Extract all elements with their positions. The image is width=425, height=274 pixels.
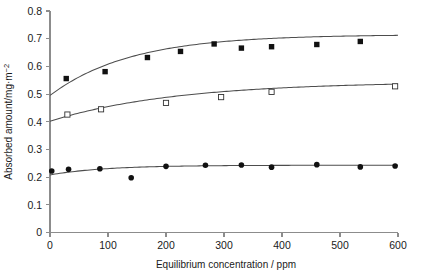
y-tick-label: 0.6	[27, 60, 42, 72]
y-tick-label: 0.5	[27, 88, 42, 100]
plot-axes	[50, 11, 398, 233]
fit-curves	[50, 35, 398, 175]
adsorption-isotherm-chart: 00.10.20.30.40.50.60.70.8 01002003004005…	[0, 0, 425, 274]
y-tick-label: 0.8	[27, 5, 42, 17]
data-point-filled-circle	[203, 162, 209, 168]
data-point-filled-square	[314, 42, 319, 47]
fit-curve-filled-square	[50, 35, 398, 95]
x-tick-label: 300	[215, 239, 233, 251]
x-tick-label: 400	[273, 239, 291, 251]
data-point-filled-circle	[66, 167, 72, 173]
chart-figure: 00.10.20.30.40.50.60.70.8 01002003004005…	[0, 0, 425, 274]
y-tick-label: 0.1	[27, 199, 42, 211]
data-point-filled-square	[178, 49, 183, 54]
data-point-filled-circle	[128, 175, 134, 181]
data-point-open-square	[269, 89, 274, 94]
y-tick-label: 0.7	[27, 32, 42, 44]
y-axis-title-base: Absorbed amount/mg·m	[3, 72, 14, 179]
data-point-filled-square	[358, 39, 363, 44]
data-point-open-square	[98, 107, 103, 112]
data-point-open-square	[219, 95, 224, 100]
y-tick-label: 0.4	[27, 116, 42, 128]
data-point-open-square	[163, 100, 168, 105]
data-point-open-square	[393, 84, 398, 89]
svg-text:Absorbed amount/mg·m−2: Absorbed amount/mg·m−2	[2, 64, 15, 180]
data-point-filled-circle	[314, 162, 320, 168]
data-point-filled-square	[269, 44, 274, 49]
y-axis-title-superscript: −2	[2, 64, 11, 73]
data-point-filled-circle	[97, 166, 103, 172]
data-point-filled-square	[211, 41, 216, 46]
x-tick-label: 0	[47, 239, 53, 251]
y-tick-label: 0.3	[27, 143, 42, 155]
data-point-filled-square	[102, 69, 107, 74]
x-axis-title: Equilibrium concentration / ppm	[156, 259, 296, 270]
data-point-filled-circle	[49, 168, 55, 174]
x-tick-label: 500	[331, 239, 349, 251]
data-point-open-square	[65, 112, 70, 117]
x-tick-label: 600	[389, 239, 407, 251]
data-point-filled-circle	[163, 164, 169, 170]
y-axis-ticks: 00.10.20.30.40.50.60.70.8	[27, 5, 50, 239]
data-point-filled-circle	[358, 164, 364, 170]
data-point-markers	[49, 39, 398, 181]
y-tick-label: 0.2	[27, 171, 42, 183]
y-tick-label: 0	[36, 226, 42, 238]
data-point-filled-square	[64, 76, 69, 81]
data-point-filled-circle	[239, 162, 245, 168]
fit-curve-open-square	[50, 84, 398, 121]
data-point-filled-circle	[269, 164, 275, 170]
data-point-filled-circle	[392, 163, 398, 169]
x-tick-label: 200	[157, 239, 175, 251]
y-axis-title: Absorbed amount/mg·m−2	[2, 64, 15, 180]
x-axis-ticks: 0100200300400500600	[47, 233, 407, 251]
data-point-filled-square	[239, 45, 244, 50]
x-tick-label: 100	[99, 239, 117, 251]
data-point-filled-square	[145, 55, 150, 60]
